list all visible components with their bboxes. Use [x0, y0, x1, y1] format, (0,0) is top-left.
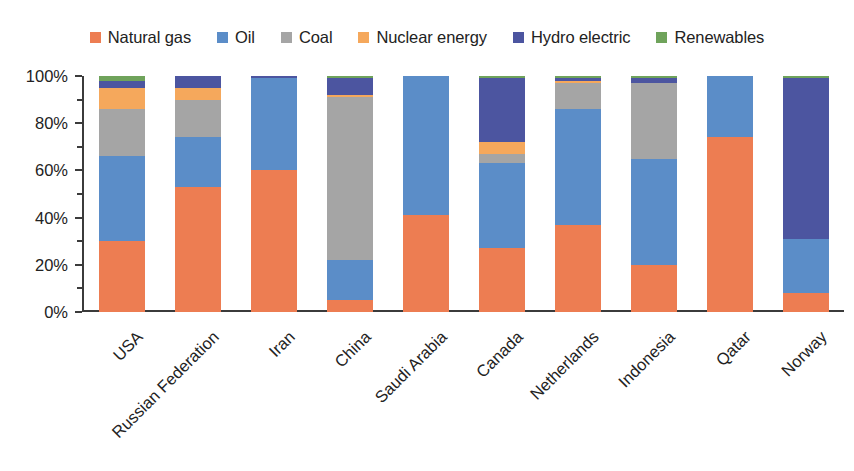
bar-segment[interactable]	[479, 248, 525, 312]
legend-item[interactable]: Hydro electric	[513, 29, 630, 46]
bar-segment[interactable]	[479, 78, 525, 142]
bar-segment[interactable]	[327, 78, 373, 95]
x-axis-category-label: Indonesia	[615, 328, 677, 390]
y-axis-major-tick	[75, 75, 82, 77]
legend-swatch-icon	[656, 32, 667, 43]
bar-segment[interactable]	[555, 225, 601, 312]
x-axis-category-label: Saudi Arabia	[372, 328, 450, 406]
bar-column[interactable]	[479, 76, 525, 312]
bar-segment[interactable]	[327, 260, 373, 300]
bar-column[interactable]	[555, 76, 601, 312]
bar-stack	[631, 76, 677, 312]
legend-swatch-icon	[358, 32, 369, 43]
bar-stack	[175, 76, 221, 312]
legend-swatch-icon	[281, 32, 292, 43]
bar-stack	[403, 76, 449, 312]
legend-swatch-icon	[513, 32, 524, 43]
bar-segment[interactable]	[479, 163, 525, 248]
x-axis-category-label: China	[332, 328, 374, 370]
bar-segment[interactable]	[99, 109, 145, 156]
bar-segment[interactable]	[251, 78, 297, 170]
x-axis-category-label: USA	[110, 328, 146, 364]
bar-segment[interactable]	[327, 97, 373, 260]
chart-legend: Natural gasOilCoalNuclear energyHydro el…	[0, 24, 854, 50]
bar-segment[interactable]	[631, 83, 677, 159]
bar-series-group	[84, 76, 844, 312]
legend-item-label: Coal	[299, 29, 333, 46]
legend-swatch-icon	[217, 32, 228, 43]
y-axis-tick-label: 100%	[6, 68, 68, 85]
bar-segment[interactable]	[555, 109, 601, 225]
x-axis-category-label: Norway	[778, 328, 829, 379]
bar-segment[interactable]	[175, 187, 221, 312]
y-axis-major-tick	[75, 264, 82, 266]
bar-segment[interactable]	[707, 137, 753, 312]
legend-item-label: Renewables	[674, 29, 764, 46]
bar-column[interactable]	[99, 76, 145, 312]
bar-segment[interactable]	[479, 154, 525, 163]
bar-column[interactable]	[327, 76, 373, 312]
bar-segment[interactable]	[555, 83, 601, 109]
bar-segment[interactable]	[479, 142, 525, 154]
y-axis-tick-label: 20%	[6, 257, 68, 274]
legend-item[interactable]: Natural gas	[90, 29, 191, 46]
bar-segment[interactable]	[99, 241, 145, 312]
legend-item-label: Hydro electric	[531, 29, 630, 46]
legend-swatch-icon	[90, 32, 101, 43]
y-axis-tick-labels: 0%20%40%60%80%100%	[0, 58, 68, 328]
bar-column[interactable]	[251, 76, 297, 312]
bar-stack	[555, 76, 601, 312]
bar-stack	[327, 76, 373, 312]
x-axis-category-label: Netherlands	[527, 328, 602, 403]
bar-segment[interactable]	[631, 159, 677, 265]
bar-column[interactable]	[403, 76, 449, 312]
bar-column[interactable]	[707, 76, 753, 312]
bar-segment[interactable]	[251, 170, 297, 312]
legend-item[interactable]: Coal	[281, 29, 333, 46]
x-axis-category-label: Qatar	[713, 328, 754, 369]
legend-item[interactable]: Renewables	[656, 29, 764, 46]
bar-segment[interactable]	[707, 76, 753, 137]
y-axis-major-tick	[75, 217, 82, 219]
y-axis-tick-label: 60%	[6, 162, 68, 179]
bar-segment[interactable]	[783, 78, 829, 238]
legend-item-label: Natural gas	[108, 29, 191, 46]
y-axis-tick-label: 80%	[6, 115, 68, 132]
bar-stack	[707, 76, 753, 312]
y-axis-tick-label: 40%	[6, 209, 68, 226]
bar-segment[interactable]	[175, 100, 221, 138]
y-axis-minor-tick	[77, 99, 82, 101]
bar-segment[interactable]	[783, 239, 829, 293]
legend-item-label: Oil	[235, 29, 255, 46]
bar-segment[interactable]	[327, 300, 373, 312]
bar-segment[interactable]	[783, 293, 829, 312]
bar-segment[interactable]	[175, 137, 221, 187]
bar-column[interactable]	[631, 76, 677, 312]
bar-stack	[783, 76, 829, 312]
y-axis-major-tick	[75, 122, 82, 124]
y-axis-major-tick	[75, 169, 82, 171]
bar-segment[interactable]	[631, 265, 677, 312]
chart-plot-area: 0%20%40%60%80%100%	[0, 58, 854, 328]
bar-segment[interactable]	[403, 215, 449, 312]
bar-segment[interactable]	[99, 156, 145, 241]
y-axis-minor-tick	[77, 240, 82, 242]
legend-item[interactable]: Oil	[217, 29, 255, 46]
y-axis-minor-tick	[77, 146, 82, 148]
bar-column[interactable]	[783, 76, 829, 312]
legend-item-label: Nuclear energy	[376, 29, 487, 46]
bar-column[interactable]	[175, 76, 221, 312]
y-axis-major-tick	[75, 311, 82, 313]
bar-segment[interactable]	[99, 88, 145, 109]
bar-stack	[479, 76, 525, 312]
y-axis-minor-tick	[77, 193, 82, 195]
bar-segment[interactable]	[175, 88, 221, 100]
bar-stack	[251, 76, 297, 312]
bar-segment[interactable]	[175, 76, 221, 88]
legend-item[interactable]: Nuclear energy	[358, 29, 487, 46]
bar-segment[interactable]	[403, 76, 449, 215]
bar-segment[interactable]	[99, 81, 145, 88]
y-axis-tick-label: 0%	[6, 304, 68, 321]
bar-stack	[99, 76, 145, 312]
y-axis-minor-tick	[77, 287, 82, 289]
